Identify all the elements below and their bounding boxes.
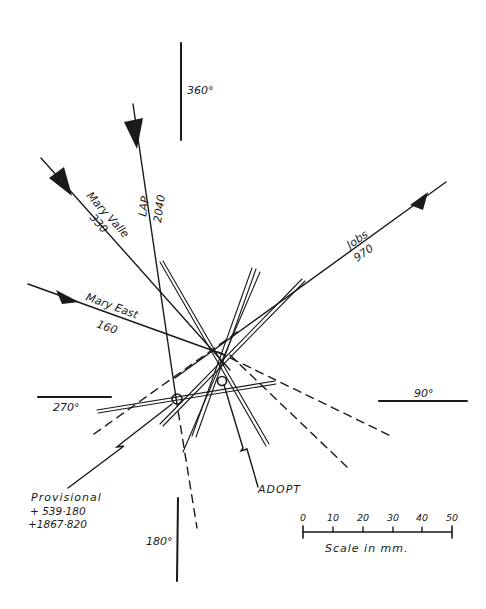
provisional-leader-line [68,404,172,488]
east-label: 90° [414,387,434,400]
arrowhead-icon [124,118,143,149]
lap-bearing-line [124,104,176,398]
scale-bar: 0 10 20 30 40 50 Scale in mm. [300,512,458,555]
adopt-leader-line [224,385,258,487]
adopt-label: ADOPT [257,483,301,496]
arrowhead-icon [410,192,428,210]
scale-tick-40: 40 [416,512,428,523]
scale-tick-0: 0 [300,512,306,523]
position-line-diagram: 360° 270° 90° 180° LAP 2040 Mary Valle 3… [0,0,486,609]
scale-caption: Scale in mm. [325,542,409,555]
scale-tick-50: 50 [446,512,458,523]
scale-tick-20: 20 [357,512,369,523]
provisional-label: Provisional [31,491,102,504]
adopted-fix-marker [218,377,227,386]
mary-east-station-value: 160 [95,318,119,337]
scale-tick-30: 30 [387,512,399,523]
double-position-lines [97,261,305,452]
west-label: 270° [53,401,80,414]
mary-east-station-name: Mary East [84,291,140,322]
arrowhead-icon [56,290,79,304]
lap-station-value: 2040 [151,194,168,224]
provisional-coord-2: +1867·820 [28,518,87,530]
mary-east-bearing-line [28,284,225,355]
mary-valle-bearing-line [41,158,230,370]
north-label: 360° [187,84,214,97]
south-label: 180° [146,535,173,548]
south-bar [177,498,178,581]
jobs-bearing-line [175,182,446,378]
provisional-coord-1: + 539·180 [30,505,86,517]
scale-tick-10: 10 [327,512,339,523]
